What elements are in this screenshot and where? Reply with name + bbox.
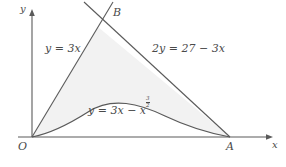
math-figure (0, 0, 286, 167)
point-label-A: A (226, 141, 234, 152)
label-curve-exponent-denominator: 2 (146, 102, 150, 109)
label-curve-exponent: 32 (146, 96, 150, 108)
label-line-y-equals-3x: y = 3x (45, 43, 81, 54)
label-curve-prefix: y = 3x (88, 104, 127, 117)
label-curve-base: x (136, 104, 146, 117)
y-axis-label: y (20, 4, 26, 14)
label-line-2y-equals-27-minus-3x-text: 2y = 27 − 3x (152, 42, 225, 55)
label-curve-minus: − (127, 104, 136, 117)
label-line-2y-equals-27-minus-3x: 2y = 27 − 3x (152, 43, 225, 54)
y-axis-arrowhead (29, 9, 35, 16)
label-line-y-equals-3x-text: y = 3x (45, 42, 81, 55)
x-axis-label: x (272, 140, 278, 150)
label-curve-y-equals-3x-minus-x-three-halves: y = 3x − x32 (88, 99, 150, 116)
point-label-B: B (113, 7, 121, 18)
label-curve-exponent-numerator: 3 (146, 96, 150, 102)
point-label-O: O (18, 141, 27, 152)
